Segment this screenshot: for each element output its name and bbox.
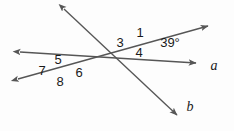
line-label-a: a: [211, 59, 218, 73]
line-label-b: b: [187, 100, 194, 114]
angle-label-5: 5: [54, 53, 61, 66]
angle-label-8: 8: [56, 75, 63, 88]
angle-label-3: 3: [116, 36, 123, 49]
geometry-diagram: 1 3 4 5 6 7 8 39° a b: [0, 0, 234, 131]
angle-label-4: 4: [135, 46, 142, 59]
angle-label-6: 6: [75, 66, 82, 79]
angle-label-1: 1: [136, 26, 143, 39]
geometry-figure-canvas: [0, 0, 234, 131]
angle-label-7: 7: [38, 64, 45, 77]
angle-measure-39-degrees: 39°: [160, 36, 180, 49]
